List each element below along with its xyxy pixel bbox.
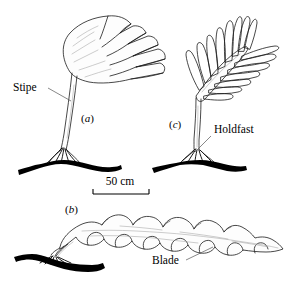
scale-bar-label: 50 cm	[106, 175, 134, 187]
specimen-c-rachis	[196, 47, 248, 102]
figure-canvas: (a) Stipe	[0, 0, 297, 284]
annotation-holdfast: Holdfast	[195, 123, 254, 152]
stipe-label: Stipe	[13, 81, 37, 94]
specimen-b-blade	[60, 215, 283, 255]
stipe-leader-line	[48, 88, 71, 101]
specimen-a-blade	[63, 16, 165, 83]
panel-label-b: (b)	[65, 203, 78, 216]
specimen-a: (a)	[18, 16, 165, 175]
kelp-morphology-figure: (a) Stipe	[0, 0, 297, 284]
substrate-b	[14, 254, 105, 272]
blade-label: Blade	[152, 254, 179, 266]
substrate-c	[152, 160, 247, 173]
specimen-c-stipe	[194, 98, 201, 150]
panel-label-c: (c)	[169, 118, 182, 131]
specimen-b: (b)	[14, 203, 283, 272]
holdfast-leader-line	[195, 136, 211, 152]
holdfast-label: Holdfast	[214, 123, 254, 135]
panel-label-a: (a)	[81, 112, 94, 125]
scale-bar: 50 cm	[93, 175, 149, 194]
specimen-a-stipe	[61, 73, 77, 150]
substrate-a	[18, 160, 122, 175]
specimen-c: (c)	[152, 17, 279, 173]
annotation-stipe: Stipe	[13, 81, 71, 101]
